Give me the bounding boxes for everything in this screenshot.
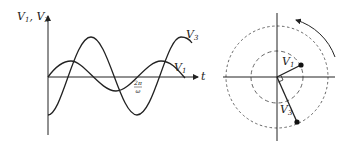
rotation-arrow-icon	[296, 20, 335, 57]
vector-v3-label: V3	[280, 103, 293, 117]
diagram-canvas: V1, V3 t V3 V1 2π ω V1	[0, 0, 351, 145]
waveform-graph: V1, V3 t V3 V1 2π ω	[17, 10, 206, 135]
svg-text:ω: ω	[136, 87, 141, 94]
curve-v3	[48, 37, 192, 115]
period-label: 2π ω	[133, 79, 143, 94]
vector-v3-tip	[294, 119, 299, 124]
svg-text:2π: 2π	[133, 79, 143, 86]
vector-v1-label: V1	[282, 55, 294, 69]
x-axis-label: t	[201, 70, 206, 83]
vector-v1-tip	[298, 62, 303, 67]
curve-v1-label: V1	[174, 61, 186, 75]
curve-v3-label: V3	[186, 28, 199, 42]
phasor-diagram: V1 V3	[223, 13, 335, 141]
y-axis-label: V1, V3	[17, 10, 49, 24]
